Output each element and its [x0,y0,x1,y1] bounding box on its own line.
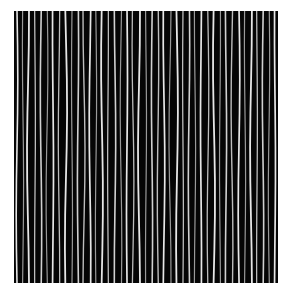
stripe-line [53,11,54,283]
stripe-line [151,11,152,283]
stripe-line [120,11,122,283]
stripe-line [268,11,269,283]
stripe-line [138,11,140,283]
stripe-lines [14,11,278,283]
stripe-line [207,11,209,283]
stripe-line [244,11,245,283]
stripe-line [183,11,184,283]
stripe-line [201,11,202,283]
stripe-line [83,11,85,283]
stripe-line [46,11,48,283]
stripe-line [262,11,263,283]
stripe-texture-image [14,11,278,283]
stripe-line [16,11,18,283]
stripe-line [157,11,158,283]
stripe-line [95,11,96,283]
stripe-line [40,11,41,283]
stripe-line [275,11,276,283]
stripe-line [257,11,258,283]
stripe-line [213,11,215,283]
stripe-line [58,11,59,283]
stripe-line [127,11,128,283]
stripe-line [35,11,36,283]
stripe-line [225,11,226,283]
stripe-line [108,11,109,283]
stripe-line [220,11,221,283]
stripe-line [169,11,171,283]
stripe-line [72,11,73,283]
stripe-line [77,11,78,283]
stripe-line [188,11,189,283]
stripe-line [176,11,178,283]
stripe-line [65,11,67,283]
stripe-line [238,11,240,283]
stripe-line [194,11,195,283]
stripe-line [22,11,23,283]
stripe-line [146,11,147,283]
stripe-line [231,11,233,283]
stripe-line [163,11,165,283]
stripe-line [114,11,115,283]
stripe-line [132,11,134,283]
stripe-line [101,11,103,283]
stripe-line [250,11,252,283]
stripe-line [27,11,29,283]
stripe-line [89,11,91,283]
